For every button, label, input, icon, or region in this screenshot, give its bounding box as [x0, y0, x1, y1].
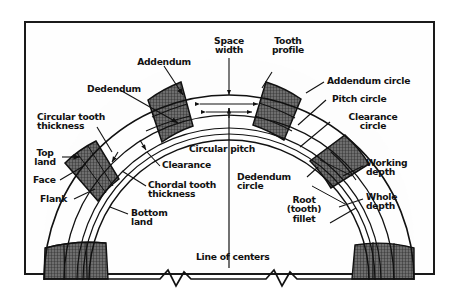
label-bottom-land: Bottom land	[131, 208, 167, 227]
label-tooth-profile: Tooth profile	[253, 36, 323, 55]
label-dedendum-circle: Dedendum circle	[237, 172, 291, 191]
label-chordal-tooth-thickness: Chordal tooth thickness	[148, 180, 216, 199]
label-working-depth: Working depth	[366, 158, 407, 177]
label-clearance: Clearance	[162, 160, 211, 169]
label-dedendum: Dedendum	[87, 84, 141, 93]
label-addendum-circle: Addendum circle	[327, 76, 410, 85]
label-circular-pitch: Circular pitch	[189, 144, 255, 153]
label-pitch-circle: Pitch circle	[332, 94, 386, 103]
label-top-land: Top land	[28, 148, 62, 167]
label-clearance-circle: Clearance circle	[336, 112, 410, 131]
label-root-tooth-fillet: Root (tooth) fillet	[277, 195, 331, 223]
label-whole-depth: Whole depth	[366, 192, 397, 211]
label-addendum: Addendum	[120, 57, 208, 66]
label-circular-tooth-thickness: Circular tooth thickness	[37, 112, 105, 131]
gear-tooth-lower-right	[352, 242, 414, 279]
label-face: Face	[33, 175, 56, 184]
label-flank: Flank	[40, 194, 67, 203]
gear-nomenclature-figure: Addendum Space width Tooth profile Adden…	[0, 0, 458, 297]
gear-tooth	[44, 242, 108, 279]
label-line-of-centers: Line of centers	[196, 252, 270, 261]
